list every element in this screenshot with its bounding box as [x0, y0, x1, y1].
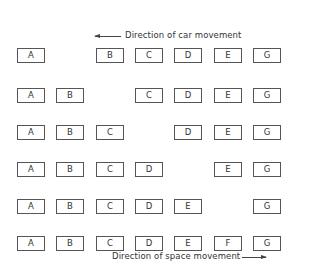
car-box: A: [17, 88, 45, 103]
car-box: A: [17, 236, 45, 251]
car-box: A: [17, 162, 45, 177]
car-box: B: [56, 162, 84, 177]
car-box: G: [253, 48, 281, 63]
car-box: B: [56, 125, 84, 140]
car-box: C: [96, 125, 124, 140]
car-box: F: [214, 236, 242, 251]
car-box: E: [174, 236, 202, 251]
car-box: D: [135, 199, 163, 214]
car-box: B: [56, 236, 84, 251]
car-direction-arrow-icon: [95, 36, 121, 37]
car-box: C: [96, 199, 124, 214]
car-box: E: [214, 162, 242, 177]
car-box: B: [56, 199, 84, 214]
car-box: A: [17, 48, 45, 63]
car-box: E: [214, 125, 242, 140]
car-movement-caption: Direction of car movement: [125, 30, 242, 40]
car-box: D: [135, 236, 163, 251]
car-box: B: [96, 48, 124, 63]
car-box: C: [96, 162, 124, 177]
car-box: C: [135, 48, 163, 63]
car-box: C: [96, 236, 124, 251]
car-box: G: [253, 236, 281, 251]
car-box: D: [174, 88, 202, 103]
parking-row: ABCDEFG: [0, 199, 336, 215]
parking-row: ABCDEFG: [0, 236, 336, 252]
car-box: G: [253, 199, 281, 214]
car-box: D: [174, 48, 202, 63]
space-direction-arrow-icon: [242, 257, 266, 258]
car-box: E: [214, 88, 242, 103]
car-box: G: [253, 162, 281, 177]
parking-row: ABCDEFG: [0, 48, 336, 64]
car-box: A: [17, 125, 45, 140]
space-movement-caption: Direction of space movement: [112, 251, 240, 261]
car-box: D: [135, 162, 163, 177]
parking-row: ABCDEFG: [0, 162, 336, 178]
car-box: D: [174, 125, 202, 140]
car-box: G: [253, 125, 281, 140]
parking-row: ABCDEFG: [0, 88, 336, 104]
car-box: E: [174, 199, 202, 214]
car-box: G: [253, 88, 281, 103]
car-box: A: [17, 199, 45, 214]
car-box: B: [56, 88, 84, 103]
car-box: C: [135, 88, 163, 103]
car-box: E: [214, 48, 242, 63]
parking-row: ABCDEFG: [0, 125, 336, 141]
